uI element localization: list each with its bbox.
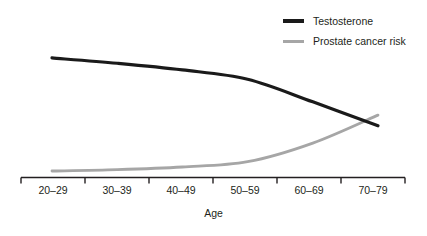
chart-legend: Testosterone Prostate cancer risk	[283, 12, 423, 52]
legend-swatch-testosterone	[283, 19, 304, 23]
x-axis-tick-label: 60–69	[294, 184, 323, 197]
chart-figure: Testosterone Prostate cancer risk 20–293…	[0, 0, 427, 236]
legend-item-prostate-cancer-risk: Prostate cancer risk	[283, 32, 423, 50]
x-axis-tick-label: 50–59	[230, 184, 259, 197]
legend-item-testosterone: Testosterone	[283, 12, 423, 30]
x-axis-tick-label: 30–39	[102, 184, 131, 197]
legend-swatch-prostate-cancer-risk	[283, 40, 304, 43]
x-axis-tick-label: 40–49	[166, 184, 195, 197]
legend-label-testosterone: Testosterone	[313, 15, 373, 27]
x-axis-tick-labels: 20–2930–3940–4950–5960–6970–79	[0, 184, 427, 200]
legend-label-prostate-cancer-risk: Prostate cancer risk	[313, 35, 406, 47]
x-axis-tick-label: 20–29	[38, 184, 67, 197]
x-axis-tick-label: 70–79	[358, 184, 387, 197]
x-axis-title: Age	[0, 207, 427, 220]
